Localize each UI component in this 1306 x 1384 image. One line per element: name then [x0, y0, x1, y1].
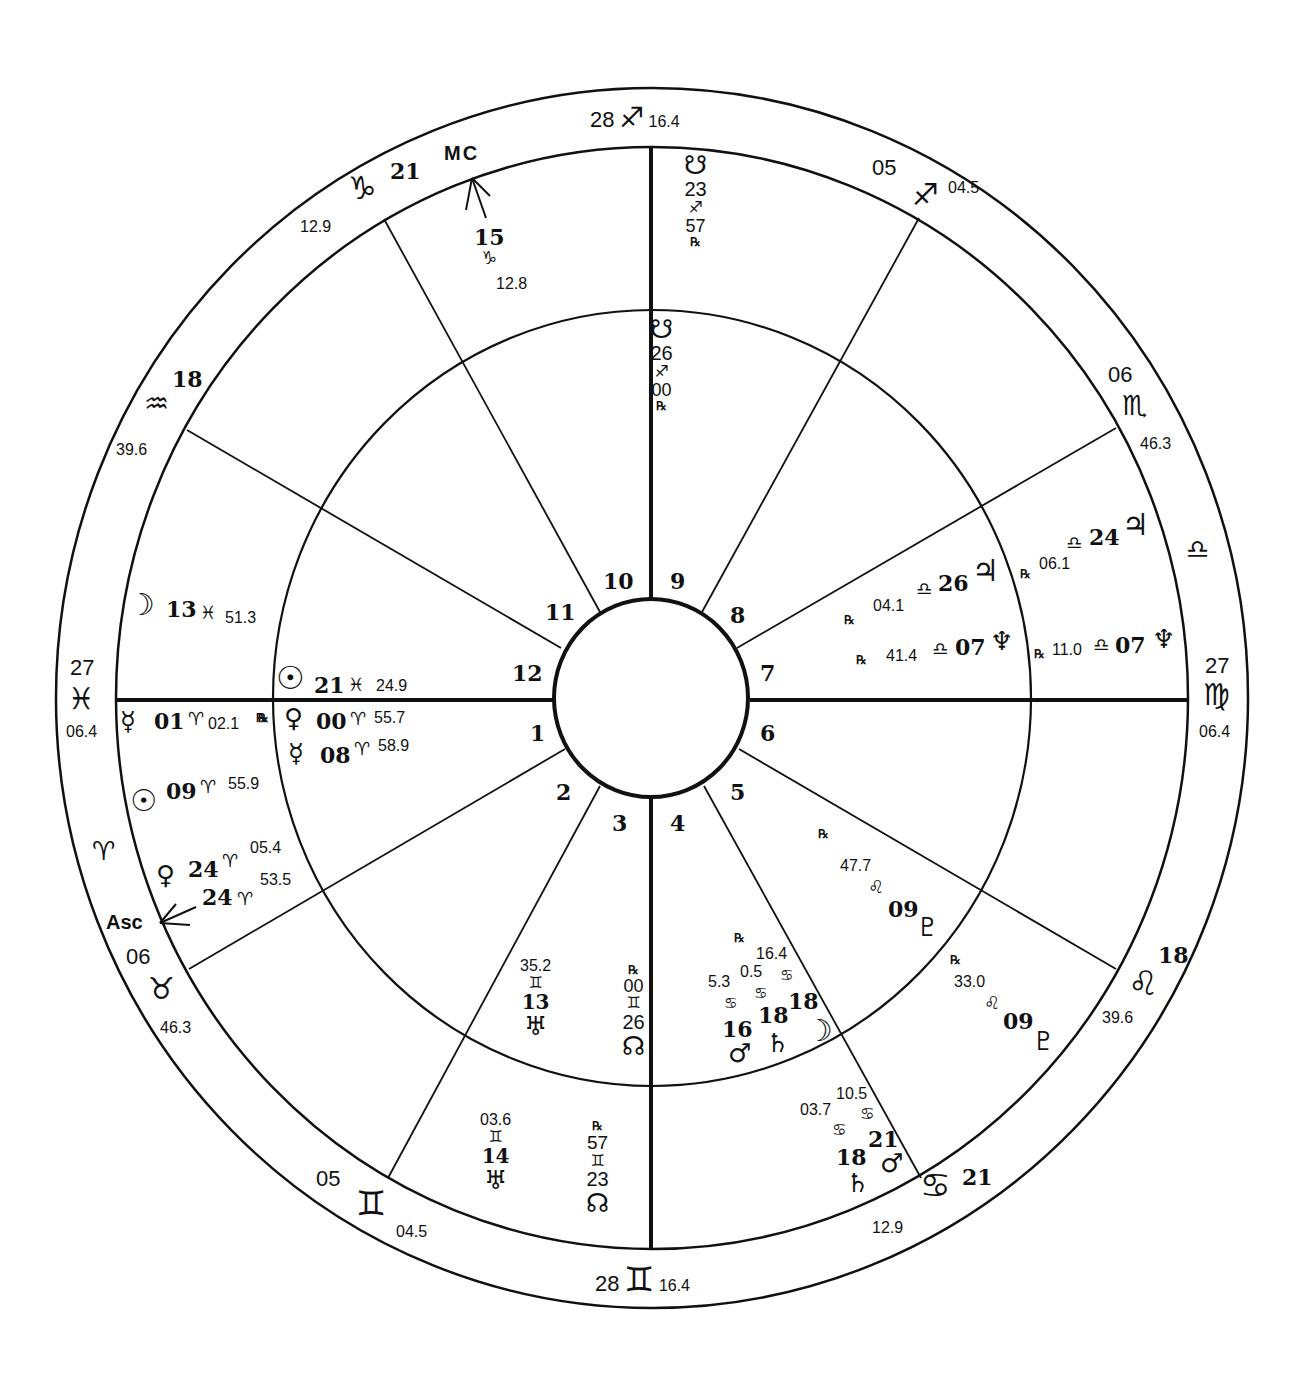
- south-node-icon: ☋: [684, 152, 707, 179]
- cusp-min-aquarius: 39.6: [116, 442, 147, 458]
- retrograde-icon: ℞: [844, 614, 855, 626]
- pluto-icon: ♇: [1032, 1028, 1055, 1054]
- libra-icon: ♎: [932, 640, 948, 658]
- sagittarius-icon: ♐: [654, 364, 668, 381]
- virgo-icon: ♍: [1203, 680, 1230, 710]
- neptune-icon: ♆: [990, 628, 1013, 654]
- capricorn-icon: ♑: [481, 249, 497, 268]
- cusp-label-mc: 28 ♐ 16.4: [590, 104, 680, 132]
- cancer-icon: ♋: [832, 1122, 846, 1138]
- inner-moon-minutes: 16.4: [756, 946, 787, 962]
- cancer-icon: ♋: [920, 1168, 950, 1202]
- north-node-icon: ☊: [586, 1190, 609, 1217]
- retrograde-icon: ℞: [592, 1120, 603, 1133]
- outer-uranus: 03.6 ♊ 14 ♅: [480, 1112, 511, 1194]
- outer-mercury-degree: 01: [154, 710, 185, 732]
- cusp-deg-virgo: 27: [1205, 655, 1229, 677]
- inner-south-node: ☋ 26 ♐ 00 ℞: [650, 316, 673, 413]
- inner-north-node: ℞ 00 ♊ 26 ☊: [622, 964, 645, 1061]
- pisces-icon: ♓: [200, 604, 216, 622]
- outer-jupiter-minutes: 06.1: [1039, 556, 1070, 572]
- aries-icon: ♈: [354, 740, 370, 758]
- cusp-deg-pisces: 27: [70, 657, 94, 679]
- saturn-icon: ♄: [766, 1030, 789, 1056]
- uranus-icon: ♅: [484, 1167, 507, 1194]
- pisces-icon: ♓: [348, 676, 364, 694]
- moon-icon: ☽: [806, 1016, 833, 1046]
- retrograde-icon: ℞: [950, 954, 961, 966]
- venus-icon: ♀: [156, 862, 175, 888]
- jupiter-icon: ♃: [1122, 510, 1149, 540]
- house-number-8: 8: [730, 604, 745, 626]
- house-number-2: 2: [556, 781, 571, 803]
- aries-icon: ♈: [92, 838, 115, 864]
- cusp-line-9: [702, 218, 919, 612]
- pisces-icon: ♓: [68, 684, 95, 714]
- retrograde-icon: ℞: [656, 400, 667, 413]
- cancer-icon: ♋: [754, 986, 767, 1001]
- inner-sun-minutes: 24.9: [376, 678, 407, 694]
- cusp-deg-scorpio: 06: [1108, 364, 1132, 386]
- cancer-icon: ♋: [860, 1106, 874, 1122]
- retrograde-icon: ℞: [628, 964, 639, 977]
- cusp-label-ic: 28 ♊ 16.4: [595, 1262, 690, 1296]
- outer-venus-minutes: 05.4: [250, 840, 281, 856]
- taurus-icon: ♉: [148, 974, 175, 1004]
- inner-saturn-degree: 18: [758, 1004, 789, 1026]
- outer-venus-degree: 24: [188, 858, 219, 880]
- house-number-7: 7: [760, 662, 775, 684]
- inner-venus-degree: 00: [316, 710, 347, 732]
- uranus-icon: ♅: [524, 1013, 547, 1040]
- cancer-icon: ♋: [724, 996, 737, 1011]
- retrograde-icon: ℞: [258, 712, 269, 724]
- sagittarius-icon: ♐: [912, 180, 939, 210]
- cusp-deg-taurus: 06: [126, 946, 150, 968]
- house-number-4: 4: [670, 812, 685, 834]
- outer-sun-degree: 09: [166, 780, 197, 802]
- outer-sun-minutes: 55.9: [228, 776, 259, 792]
- south-node-icon: ☋: [650, 316, 673, 343]
- outer-mercury-minutes: 02.1: [208, 716, 239, 732]
- scorpio-icon: ♏: [1122, 392, 1147, 420]
- aquarius-icon: ♒: [144, 390, 169, 418]
- cusp-line-5: [704, 786, 921, 1178]
- house-number-10: 10: [603, 570, 634, 592]
- retrograde-icon: ℞: [856, 654, 867, 666]
- gemini-icon: ♊: [626, 995, 640, 1012]
- aries-icon: ♈: [237, 888, 253, 909]
- venus-icon: ♀: [284, 705, 303, 731]
- inner-neptune-degree: 07: [955, 636, 986, 658]
- outer-south-node: ☋ 23 ♐ 57 ℞: [684, 152, 707, 249]
- pluto-icon: ♇: [916, 914, 939, 940]
- center-hub: [554, 599, 748, 797]
- retrograde-icon: ℞: [734, 932, 745, 944]
- aries-icon: ♈: [222, 852, 238, 870]
- cusp-min-gemini-05: 04.5: [396, 1224, 427, 1240]
- leo-icon: ♌: [1128, 966, 1158, 1000]
- saturn-icon: ♄: [846, 1170, 869, 1196]
- outer-pluto-minutes: 33.0: [954, 974, 985, 990]
- inner-sun-degree: 21: [314, 674, 345, 696]
- chart-wheel: [0, 0, 1306, 1384]
- mars-icon: ♂: [880, 1150, 903, 1176]
- leo-icon: ♌: [984, 994, 1000, 1012]
- cancer-icon: ♋: [780, 968, 793, 983]
- cusp-min-capricorn: 12.9: [300, 219, 331, 235]
- retrograde-icon: ℞: [818, 828, 829, 840]
- retrograde-icon: ℞: [690, 236, 701, 249]
- house-number-9: 9: [670, 570, 685, 592]
- house-number-1: 1: [530, 722, 545, 744]
- jupiter-icon: ♃: [972, 556, 999, 586]
- cusp-min-scorpio: 46.3: [1140, 436, 1171, 452]
- mc-minutes: 12.8: [496, 276, 527, 292]
- outer-neptune-degree: 07: [1115, 634, 1146, 656]
- retrograde-icon: ℞: [1020, 568, 1031, 580]
- inner-pluto-degree: 09: [888, 898, 919, 920]
- house-number-11: 11: [545, 601, 576, 623]
- inner-mercury-degree: 08: [320, 744, 351, 766]
- cusp-line-8: [737, 428, 1116, 648]
- moon-icon: ☽: [128, 590, 155, 620]
- cusp-deg-capricorn: 21: [390, 160, 421, 182]
- gemini-icon: ♊: [590, 1153, 604, 1170]
- sun-icon: ☉: [130, 786, 157, 816]
